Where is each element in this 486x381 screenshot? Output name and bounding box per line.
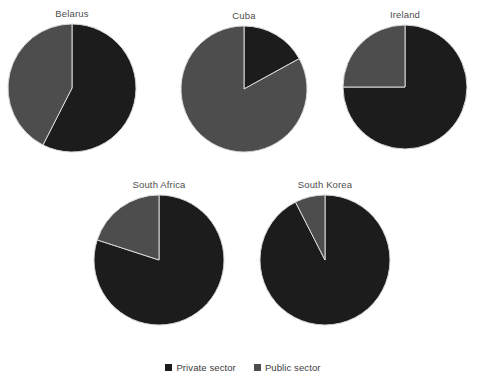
pie-graphic xyxy=(92,193,226,327)
pie-panel-title: Belarus xyxy=(55,8,88,20)
pie-graphic xyxy=(6,22,138,154)
legend-item-public-sector: Public sector xyxy=(254,362,321,373)
pie-panel: Ireland xyxy=(341,9,469,151)
pie-chart-figure: BelarusCubaIrelandSouth AfricaSouth Kore… xyxy=(0,0,486,381)
legend-label-private-sector: Private sector xyxy=(176,362,235,373)
pie-panel: Belarus xyxy=(6,8,138,154)
pie-panel-title: Cuba xyxy=(232,10,255,22)
pie-panel-title: South Africa xyxy=(132,179,185,191)
pie-slice xyxy=(343,25,405,87)
chart-legend: Private sector Public sector xyxy=(0,362,486,373)
pie-panel: South Africa xyxy=(92,179,226,327)
pie-panel-title: South Korea xyxy=(298,179,352,191)
pie-panel: Cuba xyxy=(179,10,309,154)
pie-panel: South Korea xyxy=(258,179,392,327)
legend-label-public-sector: Public sector xyxy=(265,362,321,373)
pie-panel-title: Ireland xyxy=(390,9,420,21)
legend-item-private-sector: Private sector xyxy=(165,362,235,373)
legend-swatch-public-sector xyxy=(254,364,261,371)
pie-graphic xyxy=(179,24,309,154)
pie-graphic xyxy=(341,23,469,151)
legend-swatch-private-sector xyxy=(165,364,172,371)
pie-graphic xyxy=(258,193,392,327)
